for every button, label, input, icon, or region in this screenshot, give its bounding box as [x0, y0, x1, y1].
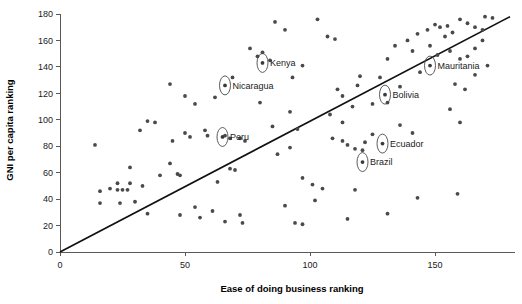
annotation-point: [361, 160, 365, 164]
data-point: [321, 187, 325, 191]
data-point: [448, 107, 452, 111]
data-point: [273, 20, 277, 24]
data-point: [98, 201, 102, 205]
data-point: [183, 94, 187, 98]
annotation-point: [221, 135, 225, 139]
data-point: [153, 121, 157, 125]
y-axis-title: GNI per capita ranking: [4, 79, 15, 181]
data-point: [331, 136, 335, 140]
data-point: [443, 35, 447, 39]
y-tick-label: 180: [38, 9, 53, 19]
x-tick-label: 50: [180, 260, 190, 270]
data-point: [466, 54, 470, 58]
data-point: [416, 32, 420, 36]
data-point: [378, 76, 382, 80]
data-point: [398, 123, 402, 127]
scatter-chart: 020406080100120140160180050100150 KenyaN…: [0, 0, 522, 304]
data-point: [128, 165, 132, 169]
data-point: [193, 102, 197, 106]
data-point: [93, 143, 97, 147]
y-tick-label: 40: [43, 194, 53, 204]
data-point: [121, 188, 125, 192]
data-point: [293, 221, 297, 225]
data-point: [438, 25, 442, 29]
data-point: [356, 84, 360, 88]
data-point: [433, 23, 437, 27]
data-point: [473, 25, 477, 29]
data-point: [406, 39, 410, 43]
data-point: [171, 139, 175, 143]
data-point: [198, 216, 202, 220]
data-point: [188, 135, 192, 139]
data-point: [346, 217, 350, 221]
data-point: [363, 140, 367, 144]
data-point: [341, 139, 345, 143]
data-point: [473, 46, 477, 50]
data-point: [158, 173, 162, 177]
data-point: [283, 204, 287, 208]
annotation-label: Nicaragua: [233, 81, 274, 91]
data-point: [436, 53, 440, 57]
data-point: [333, 37, 337, 41]
data-point: [453, 82, 457, 86]
y-tick-label: 160: [38, 36, 53, 46]
data-point: [398, 85, 402, 89]
annotation-point: [428, 64, 432, 68]
data-point: [168, 162, 172, 166]
data-point: [108, 187, 112, 191]
x-tick-label: 0: [57, 260, 62, 270]
data-point: [238, 213, 242, 217]
annotation-label: Kenya: [270, 58, 296, 68]
x-tick-label: 150: [427, 260, 442, 270]
data-point: [211, 209, 215, 213]
data-point: [141, 184, 145, 188]
y-tick-label: 0: [48, 247, 53, 257]
data-point: [458, 17, 462, 21]
data-point: [301, 222, 305, 226]
annotation-label: Mauritania: [438, 61, 480, 71]
data-point: [311, 183, 315, 187]
data-point: [463, 87, 467, 91]
y-tick-label: 80: [43, 141, 53, 151]
data-point: [426, 28, 430, 32]
data-point: [358, 74, 362, 78]
data-point: [458, 121, 462, 125]
data-point: [386, 212, 390, 216]
data-points: [93, 15, 494, 226]
data-point: [223, 220, 227, 224]
data-point: [473, 73, 477, 77]
data-point: [146, 119, 150, 123]
data-point: [241, 221, 245, 225]
data-point: [146, 212, 150, 216]
data-point: [346, 143, 350, 147]
data-point: [393, 44, 397, 48]
data-point: [128, 181, 132, 185]
data-point: [341, 94, 345, 98]
data-point: [291, 76, 295, 80]
data-point: [491, 16, 495, 20]
data-point: [483, 15, 487, 19]
y-tick-label: 140: [38, 62, 53, 72]
annotation-label: Brazil: [370, 157, 393, 167]
data-point: [301, 64, 305, 68]
data-point: [203, 128, 207, 132]
data-point: [168, 82, 172, 86]
data-point: [328, 113, 332, 117]
data-point: [448, 49, 452, 53]
data-point: [301, 176, 305, 180]
data-point: [386, 57, 390, 61]
y-tick-label: 120: [38, 89, 53, 99]
chart-canvas: 020406080100120140160180050100150 KenyaN…: [0, 0, 522, 304]
trend-line: [60, 17, 510, 252]
data-point: [296, 127, 300, 131]
data-point: [193, 205, 197, 209]
data-point: [231, 76, 235, 80]
data-point: [116, 188, 120, 192]
annotation-point: [381, 142, 385, 146]
data-point: [116, 181, 120, 185]
regression-line: [60, 17, 510, 252]
data-point: [341, 121, 345, 125]
data-point: [138, 128, 142, 132]
data-point: [428, 44, 432, 48]
data-point: [313, 199, 317, 203]
